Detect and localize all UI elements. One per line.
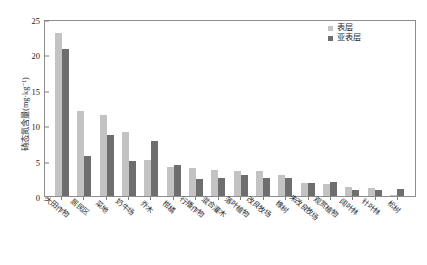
legend-swatch-icon xyxy=(328,26,333,31)
x-axis-label: 乔木 xyxy=(139,198,157,215)
x-axis-label: 菜地 xyxy=(94,198,112,215)
bar xyxy=(167,167,174,196)
x-axis-label-slot: 橡树 xyxy=(274,200,296,264)
bar xyxy=(77,111,84,196)
bar xyxy=(151,141,158,196)
bar xyxy=(330,182,337,196)
bar xyxy=(122,132,129,196)
bar-group xyxy=(207,21,229,196)
bar xyxy=(107,135,114,196)
bar-group xyxy=(140,21,162,196)
bar-group xyxy=(73,21,95,196)
x-axis-label-slot: 观赏植物 xyxy=(319,200,341,264)
y-axis-tick-label: 10 xyxy=(5,122,45,132)
x-axis-labels: 大田作物居民区菜地奶牛场乔木柑橘行播作物混合灌木落叶植物改良牧场橡树未改良牧场观… xyxy=(44,200,416,264)
bar-series-container xyxy=(45,21,415,196)
x-axis-label-slot: 乔木 xyxy=(140,200,162,264)
bar xyxy=(62,49,69,196)
bar-group xyxy=(386,21,408,196)
bar xyxy=(55,33,62,196)
bar-group xyxy=(230,21,252,196)
bar xyxy=(345,187,352,196)
x-axis-label-slot: 落叶植物 xyxy=(230,200,252,264)
y-axis-tick-label: 25 xyxy=(5,16,45,26)
legend-item[interactable]: 亚表层 xyxy=(328,34,361,42)
bar xyxy=(174,165,181,196)
bar xyxy=(368,188,375,196)
bar xyxy=(352,190,359,196)
x-axis-label-slot: 针叶林 xyxy=(364,200,386,264)
bar xyxy=(256,171,263,196)
bar xyxy=(211,170,218,196)
bar xyxy=(189,168,196,196)
legend-label: 表层 xyxy=(337,24,353,32)
bar xyxy=(323,184,330,196)
x-axis-label-slot: 柑橘 xyxy=(162,200,184,264)
bar-group xyxy=(296,21,318,196)
bar-group xyxy=(252,21,274,196)
legend: 表层亚表层 xyxy=(328,24,361,44)
nitrate-nitrogen-bar-chart: 硝态氮含量(mg·kg⁻¹) 0510152025 大田作物居民区菜地奶牛场乔木… xyxy=(0,0,427,265)
bar-group xyxy=(96,21,118,196)
bar xyxy=(278,175,285,196)
x-axis-label-slot: 未改良牧场 xyxy=(297,200,319,264)
bar xyxy=(263,178,270,196)
bar-group xyxy=(363,21,385,196)
bar xyxy=(196,179,203,196)
bar xyxy=(144,160,151,196)
bar xyxy=(241,175,248,196)
bar xyxy=(84,156,91,196)
y-axis-tick-label: 0 xyxy=(5,193,45,203)
bar xyxy=(129,161,136,196)
legend-item[interactable]: 表层 xyxy=(328,24,361,32)
bar-group xyxy=(185,21,207,196)
x-axis-label: 松树 xyxy=(385,198,403,215)
bar xyxy=(234,171,241,196)
bar xyxy=(301,183,308,196)
x-axis-label-slot: 混合灌木 xyxy=(207,200,229,264)
bar-group xyxy=(163,21,185,196)
bar xyxy=(375,190,382,196)
x-axis-label-slot: 松树 xyxy=(387,200,409,264)
x-axis-label-slot: 行播作物 xyxy=(185,200,207,264)
x-axis-label-slot: 大田作物 xyxy=(50,200,72,264)
bar xyxy=(308,183,315,196)
x-axis-label-slot: 奶牛场 xyxy=(117,200,139,264)
bar xyxy=(218,178,225,196)
x-axis-label: 柑橘 xyxy=(161,198,179,215)
y-axis-tick-label: 5 xyxy=(5,158,45,168)
bar-group xyxy=(118,21,140,196)
x-axis-label-slot: 菜地 xyxy=(95,200,117,264)
x-axis-label-slot: 居民区 xyxy=(72,200,94,264)
bar-group xyxy=(341,21,363,196)
y-axis-tick-label: 20 xyxy=(5,51,45,61)
bar xyxy=(100,115,107,196)
y-axis-tick-label: 15 xyxy=(5,87,45,97)
plot-area: 0510152025 xyxy=(44,20,416,197)
bar-group xyxy=(274,21,296,196)
bar-group xyxy=(51,21,73,196)
bar xyxy=(390,195,397,196)
bar xyxy=(397,189,404,196)
bar-group xyxy=(319,21,341,196)
legend-label: 亚表层 xyxy=(337,34,361,42)
legend-swatch-icon xyxy=(328,36,333,41)
x-axis-label-slot: 改良牧场 xyxy=(252,200,274,264)
x-axis-label-slot: 阔叶林 xyxy=(342,200,364,264)
